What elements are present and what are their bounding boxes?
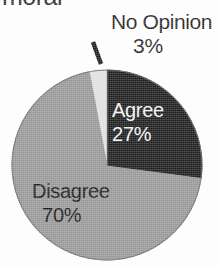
slice-value-no-opinion: 3%	[133, 35, 163, 57]
slice-value-disagree: 70%	[42, 205, 81, 226]
slice-label-no-opinion: No Opinion	[111, 11, 212, 33]
no-opinion-leader-line-icon	[93, 42, 101, 64]
slice-value-agree: 27%	[112, 124, 151, 145]
slice-label-agree: Agree	[112, 100, 164, 121]
slice-label-disagree: Disagree	[32, 181, 110, 202]
pie-graphic	[0, 0, 220, 268]
pie-chart-figure: moral No Opinion 3% Agree 27% Disagree 7…	[0, 0, 220, 268]
